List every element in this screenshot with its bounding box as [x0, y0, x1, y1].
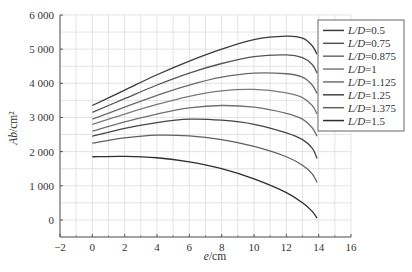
x-tick-label: 6	[187, 241, 193, 253]
x-tick-label: 14	[313, 241, 325, 253]
x-axis-title: e/cm	[204, 250, 226, 262]
y-axis-title: Ab/cm²	[7, 111, 19, 146]
x-tick-label: −2	[54, 241, 66, 253]
legend-item-label: L/D=1.5	[347, 115, 386, 127]
y-tick-label: 2 000	[29, 146, 54, 158]
legend-item-label: L/D=0.75	[347, 37, 391, 49]
legend: L/D=0.5L/D=0.75L/D=0.875L/D=1L/D=1.125L/…	[318, 20, 404, 131]
legend-item-label: L/D=1.125	[347, 76, 397, 88]
y-tick-label: 6 000	[29, 9, 54, 21]
data-series	[92, 36, 317, 218]
y-tick-label: 0	[49, 214, 55, 226]
x-tick-label: 4	[154, 241, 160, 253]
series-line	[92, 36, 317, 105]
chart-container: −20246810121416 01 0002 0003 0004 0005 0…	[0, 0, 412, 272]
x-tick-label: 16	[346, 241, 358, 253]
y-tick-label: 1 000	[29, 180, 54, 192]
legend-item-label: L/D=0.5	[347, 24, 386, 36]
series-line	[92, 156, 317, 218]
series-line	[92, 119, 317, 158]
legend-item-label: L/D=0.875	[347, 50, 397, 62]
y-tick-label: 4 000	[29, 77, 54, 89]
x-tick-label: 2	[122, 241, 128, 253]
x-tick-label: 0	[90, 241, 96, 253]
legend-item-label: L/D=1.25	[347, 89, 391, 101]
y-tick-label: 3 000	[29, 111, 54, 123]
y-axis-ticks: 01 0002 0003 0004 0005 0006 000	[29, 9, 63, 226]
x-tick-label: 10	[249, 241, 261, 253]
y-tick-label: 5 000	[29, 43, 54, 55]
series-line	[92, 135, 317, 182]
line-chart: −20246810121416 01 0002 0003 0004 0005 0…	[0, 0, 412, 272]
grid-lines	[60, 15, 351, 237]
legend-item-label: L/D=1	[347, 63, 377, 75]
legend-item-label: L/D=1.375	[347, 102, 397, 114]
x-tick-label: 12	[281, 241, 292, 253]
